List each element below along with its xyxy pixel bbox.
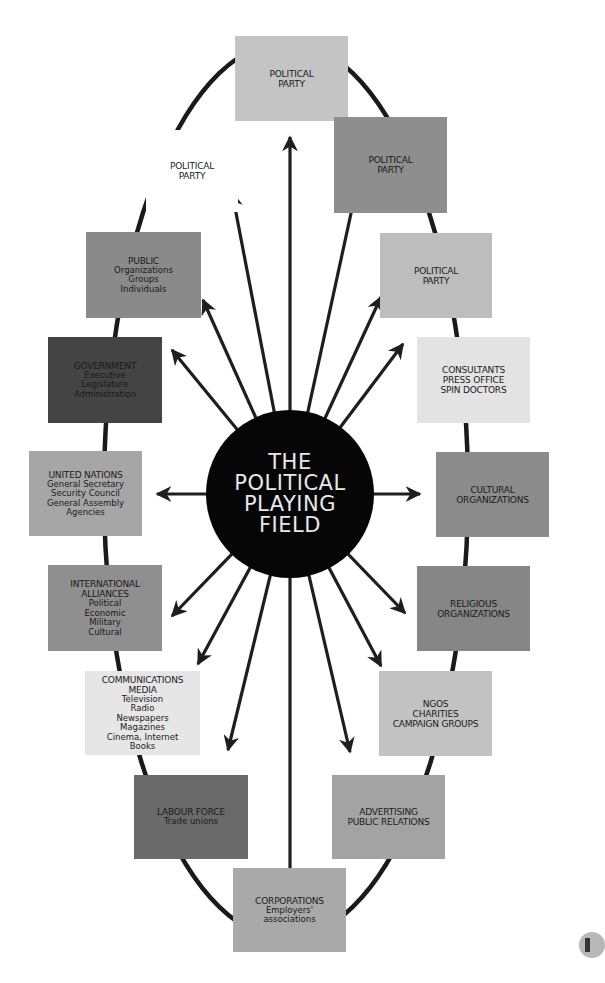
node-ngos: NGOsCHARITIESCAMPAIGN GROUPS [379,671,492,756]
node-title-line: PRESS OFFICE [443,375,504,385]
hub-line-4: FIELD [259,515,321,536]
node-title-line: UNITED NATIONS [48,470,122,480]
hub-line-2: POLITICAL [234,473,345,494]
node-consultants: CONSULTANTSPRESS OFFICESPIN DOCTORS [417,337,530,423]
node-subtitle-line: associations [263,915,315,925]
node-title-line: SPIN DOCTORS [441,385,507,395]
node-title-line: ADVERTISING [359,807,417,817]
node-subtitle-line: Books [130,742,156,752]
node-title-line: ORGANIZATIONS [456,495,529,505]
node-subtitle-line: Cultural [88,628,121,638]
node-religious-organizations: RELIGIOUSORGANIZATIONS [417,566,530,651]
node-title-line: ORGANIZATIONS [437,609,510,619]
node-international-alliances: INTERNATIONALALLIANCESPoliticalEconomicM… [48,565,162,651]
node-title-line: PARTY [179,171,206,181]
hub-circle: THE POLITICAL PLAYING FIELD [206,410,374,578]
node-political-party-right-1: POLITICALPARTY [334,117,447,213]
node-title-line: NGOs [423,699,449,709]
node-title-line: COMMUNICATIONS [102,675,184,685]
node-political-party-right-2: POLITICALPARTY [380,233,492,318]
node-subtitle-line: Agencies [66,508,105,518]
node-corporations: CORPORATIONSEmployers'associations [233,868,346,952]
node-government: GOVERNMENTExecutiveLegislatureAdministra… [48,337,162,423]
node-title-line: CORPORATIONS [255,896,324,906]
node-title-line: PARTY [423,276,450,286]
node-title-line: POLITICAL [369,155,413,165]
node-labour-force: LABOUR FORCETrade unions [134,775,248,859]
node-title-line: CONSULTANTS [442,365,505,375]
node-political-party-top: POLITICALPARTY [235,36,348,121]
node-communications-media: COMMUNICATIONSMEDIATelevisionRadioNewspa… [85,671,200,755]
node-title-line: PARTY [278,79,305,89]
node-title-line: INTERNATIONAL [70,579,140,589]
node-title-line: CULTURAL [470,485,514,495]
node-public: PUBLICOrganizationsGroupsIndividuals [86,232,201,318]
node-title-line: CAMPAIGN GROUPS [393,719,478,729]
node-title-line: RELIGIOUS [450,599,497,609]
node-advertising: ADVERTISINGPUBLIC RELATIONS [332,775,445,859]
node-subtitle-line: Administration [74,390,136,400]
node-united-nations: UNITED NATIONSGeneral SecretarySecurity … [29,451,142,536]
page-tab-icon [579,932,605,958]
node-title-line: POLITICAL [414,266,458,276]
node-subtitle-line: Trade unions [164,817,218,827]
node-title-line: POLITICAL [270,69,314,79]
hub-line-1: THE [268,452,311,473]
node-title-line: POLITICAL [170,161,214,171]
hub-line-3: PLAYING [244,494,336,515]
node-title-line: MEDIA [128,685,156,695]
node-cultural-organizations: CULTURALORGANIZATIONS [436,452,549,537]
node-title-line: PARTY [377,165,404,175]
node-political-party-left: POLITICALPARTY [146,130,238,212]
node-title-line: CHARITIES [413,709,459,719]
node-subtitle-line: Individuals [121,285,167,295]
node-title-line: PUBLIC RELATIONS [347,817,429,827]
